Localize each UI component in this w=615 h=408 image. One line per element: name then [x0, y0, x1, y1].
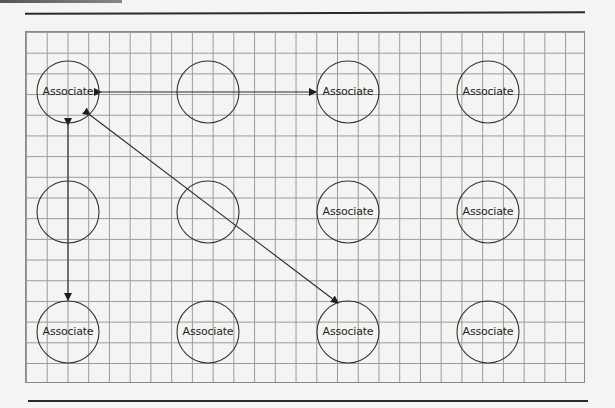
node-label-r1c3: Associate — [313, 84, 383, 100]
node-label-r3c4: Associate — [453, 324, 523, 340]
node-label-r3c3: Associate — [313, 324, 383, 340]
node-circle-r2c2 — [177, 181, 239, 243]
node-label-r1c1: Associate — [33, 84, 103, 100]
node-label-r2c4: Associate — [453, 204, 523, 220]
node-label-r3c1: Associate — [33, 324, 103, 340]
node-label-r1c4: Associate — [453, 84, 523, 100]
bottom-rule — [28, 400, 588, 402]
node-label-r2c3: Associate — [313, 204, 383, 220]
node-label-r3c2: Associate — [173, 324, 243, 340]
edge-r1c1-r3c3 — [90, 115, 338, 303]
